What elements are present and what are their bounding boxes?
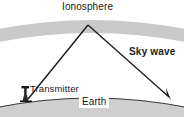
sky-wave-label: Sky wave: [129, 47, 176, 57]
ionosphere-label: Ionosphere: [62, 2, 113, 12]
sky-wave-propagation-diagram: Ionosphere Sky wave Transmitter Earth: [0, 0, 184, 117]
ionosphere-band: [0, 20, 184, 43]
transmitter-label: Transmitter: [30, 84, 79, 94]
earth-label: Earth: [79, 97, 109, 108]
arrowhead-icon: [163, 88, 171, 100]
